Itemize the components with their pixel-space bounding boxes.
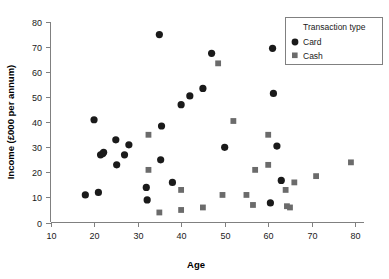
y-tick-label: 40	[32, 118, 42, 128]
cash-series	[146, 60, 354, 215]
x-tick-label: 10	[46, 231, 56, 241]
legend-marker-cash	[292, 53, 298, 59]
data-point-card	[112, 136, 119, 143]
card-series	[82, 31, 285, 207]
data-point-card	[269, 45, 276, 52]
data-point-card	[270, 90, 277, 97]
legend-label-card: Card	[303, 37, 322, 47]
data-point-card	[125, 141, 132, 148]
data-point-cash	[244, 192, 250, 198]
data-point-cash	[178, 207, 184, 213]
y-tick-label: 50	[32, 93, 42, 103]
data-point-card	[199, 85, 206, 92]
y-axis: 01020304050607080	[32, 18, 51, 229]
data-point-cash	[200, 205, 206, 211]
data-point-cash	[348, 159, 354, 165]
data-point-card	[100, 149, 107, 156]
data-point-cash	[156, 210, 162, 216]
data-point-card	[143, 184, 150, 191]
data-point-cash	[252, 167, 258, 173]
x-tick-group: 1020304050607080	[46, 223, 360, 242]
data-point-card	[156, 31, 163, 38]
data-point-card	[278, 177, 285, 184]
data-point-card	[178, 101, 185, 108]
data-point-card	[95, 189, 102, 196]
legend-marker-card	[292, 39, 299, 46]
x-tick-label: 40	[176, 231, 186, 241]
data-point-cash	[287, 205, 293, 211]
y-tick-label: 30	[32, 143, 42, 153]
x-tick-label: 70	[307, 231, 317, 241]
plot-svg: 01020304050607080 1020304050607080 Age I…	[0, 0, 389, 279]
data-point-cash	[265, 162, 271, 168]
data-point-cash	[178, 187, 184, 193]
data-point-cash	[283, 187, 289, 193]
data-point-card	[113, 161, 120, 168]
x-tick-label: 30	[133, 231, 143, 241]
y-axis-title: Income (£000 per annum)	[5, 65, 16, 180]
data-point-cash	[230, 118, 236, 124]
data-point-card	[144, 196, 151, 203]
x-tick-label: 80	[350, 231, 360, 241]
data-point-card	[169, 179, 176, 186]
legend: Transaction type Card Cash	[286, 18, 383, 65]
legend-title: Transaction type	[303, 22, 366, 32]
data-point-cash	[146, 132, 152, 138]
legend-label-cash: Cash	[303, 51, 323, 61]
y-tick-group: 01020304050607080	[32, 18, 51, 229]
x-tick-label: 60	[263, 231, 273, 241]
data-point-card	[82, 191, 89, 198]
data-point-card	[267, 199, 274, 206]
x-tick-label: 50	[220, 231, 230, 241]
data-point-card	[208, 50, 215, 57]
x-axis: 1020304050607080	[46, 223, 364, 242]
data-point-cash	[215, 60, 221, 66]
y-tick-label: 60	[32, 68, 42, 78]
data-point-card	[158, 122, 165, 129]
data-point-card	[186, 92, 193, 99]
data-point-cash	[250, 202, 256, 208]
data-point-cash	[291, 180, 297, 186]
y-tick-label: 80	[32, 18, 42, 28]
y-tick-label: 10	[32, 193, 42, 203]
data-point-card	[121, 151, 128, 158]
y-tick-label: 0	[37, 219, 42, 229]
data-point-cash	[313, 173, 319, 179]
scatter-chart: 01020304050607080 1020304050607080 Age I…	[0, 0, 389, 279]
data-point-cash	[146, 167, 152, 173]
y-tick-label: 20	[32, 168, 42, 178]
data-point-card	[90, 116, 97, 123]
data-point-cash	[265, 132, 271, 138]
y-tick-label: 70	[32, 43, 42, 53]
data-point-card	[157, 156, 164, 163]
data-point-card	[273, 142, 280, 149]
data-point-card	[221, 144, 228, 151]
x-axis-title: Age	[187, 259, 205, 270]
x-tick-label: 20	[89, 231, 99, 241]
data-point-cash	[220, 192, 226, 198]
